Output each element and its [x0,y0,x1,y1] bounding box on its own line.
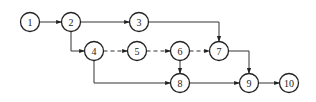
network-diagram: 12345678910 [0,0,316,102]
node-label: 10 [284,78,294,89]
node-label: 4 [92,46,97,57]
node-4: 4 [85,42,104,61]
node-label: 7 [217,46,222,57]
node-9: 9 [240,74,259,93]
node-label: 3 [137,17,142,28]
node-2: 2 [62,13,81,32]
node-10: 10 [280,74,299,93]
node-3: 3 [130,13,149,32]
edge-7-to-9 [229,51,250,74]
node-5: 5 [128,42,147,61]
node-label: 8 [178,78,183,89]
node-label: 1 [28,17,33,28]
node-label: 5 [135,46,140,57]
node-8: 8 [171,74,190,93]
node-6: 6 [171,42,190,61]
edge-2-to-4 [71,32,85,52]
nodes-layer: 12345678910 [21,13,299,93]
edges-layer [40,22,280,83]
node-label: 9 [247,78,252,89]
edge-3-to-7 [149,22,220,42]
node-label: 2 [69,17,74,28]
node-7: 7 [210,42,229,61]
node-label: 6 [178,46,183,57]
node-1: 1 [21,13,40,32]
edge-4-to-8 [94,61,171,84]
